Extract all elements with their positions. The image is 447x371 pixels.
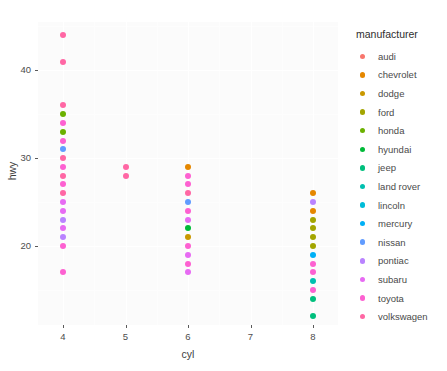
legend-swatch-icon: [356, 292, 369, 305]
legend-dot-icon: [360, 314, 366, 320]
legend-swatch-icon: [356, 273, 369, 286]
y-axis-title: hwy: [6, 141, 18, 201]
legend-item-jeep[interactable]: jeep: [356, 159, 446, 178]
grid-line: [38, 158, 338, 159]
data-point: [185, 190, 191, 196]
grid-line: [219, 22, 220, 325]
legend-item-land-rover[interactable]: land rover: [356, 177, 446, 196]
y-tick-mark: [35, 70, 38, 71]
data-point: [185, 252, 191, 258]
data-point: [185, 217, 191, 223]
data-point: [123, 173, 129, 179]
legend-dot-icon: [360, 258, 366, 264]
data-point: [185, 181, 191, 187]
legend-item-audi[interactable]: audi: [356, 47, 446, 66]
legend-swatch-icon: [356, 254, 369, 267]
data-point: [123, 164, 129, 170]
data-point: [310, 313, 316, 319]
legend-item-nissan[interactable]: nissan: [356, 233, 446, 252]
legend-item-lincoln[interactable]: lincoln: [356, 196, 446, 215]
data-point: [310, 217, 316, 223]
data-point: [60, 59, 66, 65]
data-point: [60, 243, 66, 249]
x-tick-label: 7: [231, 331, 271, 342]
data-point: [310, 243, 316, 249]
legend-item-hyundai[interactable]: hyundai: [356, 140, 446, 159]
data-point: [60, 111, 66, 117]
legend-dot-icon: [360, 277, 366, 283]
x-tick-mark: [63, 325, 64, 328]
legend-dot-icon: [360, 165, 366, 171]
legend-label: ford: [378, 107, 394, 118]
legend-dot-icon: [360, 147, 366, 153]
y-tick-label: 20: [0, 240, 31, 251]
data-point: [60, 199, 66, 205]
y-tick-mark: [35, 158, 38, 159]
legend-dot-icon: [360, 91, 366, 97]
legend-item-toyota[interactable]: toyota: [356, 289, 446, 308]
legend-dot-icon: [360, 202, 366, 208]
data-point: [60, 164, 66, 170]
y-tick-label: 40: [0, 64, 31, 75]
legend-dot-icon: [360, 295, 366, 301]
x-axis-title: cyl: [38, 348, 338, 360]
x-tick-label: 8: [293, 331, 333, 342]
data-point: [310, 190, 316, 196]
data-point: [310, 208, 316, 214]
legend-item-ford[interactable]: ford: [356, 103, 446, 122]
legend-label: land rover: [378, 181, 420, 192]
grid-line: [38, 70, 338, 71]
x-tick-label: 6: [168, 331, 208, 342]
data-point: [310, 261, 316, 267]
data-point: [310, 269, 316, 275]
legend-dot-icon: [360, 239, 366, 245]
legend-item-dodge[interactable]: dodge: [356, 84, 446, 103]
legend-item-chevrolet[interactable]: chevrolet: [356, 66, 446, 85]
legend-swatch-icon: [356, 199, 369, 212]
chart-root: 20304045678 cyl hwy manufacturer audiche…: [0, 0, 447, 371]
data-point: [60, 269, 66, 275]
legend-dot-icon: [360, 109, 366, 115]
legend-swatch-icon: [356, 310, 369, 323]
legend-title: manufacturer: [356, 28, 446, 40]
data-point: [60, 181, 66, 187]
legend-label: toyota: [378, 293, 404, 304]
legend-label: nissan: [378, 237, 405, 248]
grid-line: [282, 22, 283, 325]
legend-item-subaru[interactable]: subaru: [356, 270, 446, 289]
legend-item-mercury[interactable]: mercury: [356, 214, 446, 233]
x-tick-mark: [126, 325, 127, 328]
legend-swatch-icon: [356, 124, 369, 137]
data-point: [60, 217, 66, 223]
legend-item-volkswagen[interactable]: volkswagen: [356, 307, 446, 326]
legend-swatch-icon: [356, 68, 369, 81]
legend-swatch-icon: [356, 87, 369, 100]
legend-label: volkswagen: [378, 311, 428, 322]
grid-line: [251, 22, 252, 325]
data-point: [60, 234, 66, 240]
legend-item-honda[interactable]: honda: [356, 121, 446, 140]
legend-dot-icon: [360, 72, 366, 78]
legend-swatch-icon: [356, 217, 369, 230]
legend-label: audi: [378, 51, 396, 62]
x-tick-label: 5: [106, 331, 146, 342]
data-point: [310, 234, 316, 240]
legend-swatch-icon: [356, 236, 369, 249]
legend-dot-icon: [360, 128, 366, 134]
legend: manufacturer audichevroletdodgefordhonda…: [356, 28, 446, 326]
legend-swatch-icon: [356, 180, 369, 193]
legend-label: hyundai: [378, 144, 411, 155]
legend-dot-icon: [360, 221, 366, 227]
legend-swatch-icon: [356, 50, 369, 63]
legend-dot-icon: [360, 54, 366, 60]
data-point: [185, 199, 191, 205]
legend-label: dodge: [378, 88, 404, 99]
data-point: [60, 173, 66, 179]
data-point: [310, 252, 316, 258]
legend-item-pontiac[interactable]: pontiac: [356, 252, 446, 271]
data-point: [60, 155, 66, 161]
legend-dot-icon: [360, 184, 366, 190]
legend-swatch-icon: [356, 161, 369, 174]
data-point: [60, 190, 66, 196]
data-point: [185, 208, 191, 214]
